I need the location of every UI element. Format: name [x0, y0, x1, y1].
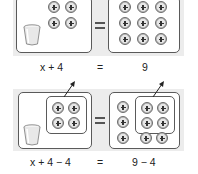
positive-counter [65, 1, 77, 13]
positive-counter [65, 17, 77, 29]
bottom-equation-equals: = [97, 156, 103, 168]
positive-counter [137, 1, 149, 13]
positive-counter [48, 1, 60, 13]
top-left-mat [16, 0, 92, 53]
positive-counter [119, 17, 131, 29]
top-equation-right: 9 [142, 61, 148, 73]
top-equation-equals: = [97, 61, 103, 73]
positive-counter [137, 33, 149, 45]
removed-counters-group [135, 96, 175, 134]
equals-sign-icon [95, 22, 105, 29]
bottom-equation-left: x + 4 − 4 [30, 156, 71, 168]
positive-counter [119, 1, 131, 13]
positive-counter [68, 102, 80, 114]
positive-counter [52, 117, 64, 129]
cup-icon [23, 24, 41, 46]
bottom-right-mat [109, 92, 180, 149]
equals-sign-icon [95, 117, 105, 124]
positive-counter [157, 102, 169, 114]
positive-counter [156, 132, 168, 144]
positive-counter [119, 33, 131, 45]
removed-counters-group [46, 96, 87, 134]
positive-counter [155, 17, 167, 29]
positive-counter [117, 101, 129, 113]
positive-counter [117, 116, 129, 128]
positive-counter [157, 117, 169, 129]
positive-counter [52, 102, 64, 114]
positive-counter [140, 132, 152, 144]
positive-counter [141, 117, 153, 129]
positive-counter [141, 102, 153, 114]
top-equation-left: x + 4 [40, 61, 63, 73]
positive-counter [48, 17, 60, 29]
top-right-mat [108, 0, 180, 53]
positive-counter [137, 17, 149, 29]
remove-arrow-icon [62, 80, 78, 98]
bottom-left-mat [18, 92, 92, 149]
cup-icon [23, 124, 41, 146]
positive-counter [155, 1, 167, 13]
positive-counter [117, 132, 129, 144]
remove-arrow-icon [151, 80, 167, 98]
positive-counter [155, 33, 167, 45]
positive-counter [68, 117, 80, 129]
bottom-equation-right: 9 − 4 [132, 156, 156, 168]
